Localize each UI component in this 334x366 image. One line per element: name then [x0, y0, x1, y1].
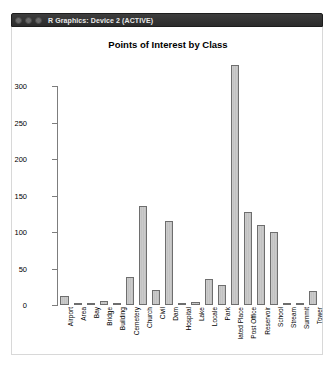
x-axis-label: School: [277, 307, 284, 327]
x-axis-label: Church: [146, 307, 153, 328]
y-axis-tick: [52, 269, 57, 270]
x-axis-label: Summit: [303, 307, 310, 329]
bar: [191, 302, 199, 305]
bar: [60, 296, 68, 305]
y-axis-tick: [52, 232, 57, 233]
bar: [296, 303, 304, 305]
x-axis-label: Cemetery: [133, 307, 140, 335]
x-axis-label: Hospital: [185, 307, 192, 330]
y-axis-tick: [52, 196, 57, 197]
y-axis-tick-label: 250: [1, 119, 27, 128]
x-axis-label: Airport: [67, 307, 74, 326]
bar: [244, 212, 252, 305]
y-axis-tick: [52, 123, 57, 124]
x-axis-label: Area: [80, 307, 87, 321]
x-axis-label: Bridge: [106, 307, 113, 326]
x-axis-label: Civil: [159, 307, 166, 319]
x-axis-label: lated Place: [237, 307, 244, 339]
x-axis-label: Locale: [211, 307, 218, 326]
y-axis-tick-label: 300: [1, 82, 27, 91]
y-axis-tick: [52, 159, 57, 160]
r-graphics-window: R Graphics: Device 2 (ACTIVE) Points of …: [0, 0, 334, 366]
bar: [87, 303, 95, 305]
y-axis-tick: [52, 86, 57, 87]
y-axis-tick-label: 100: [1, 228, 27, 237]
window-controls: [15, 17, 42, 24]
bar: [205, 279, 213, 305]
bar: [74, 303, 82, 305]
y-axis-tick-label: 50: [1, 265, 27, 274]
x-axis-label: Reservoir: [264, 307, 271, 335]
x-axis-label: Bay: [93, 307, 100, 318]
bar: [231, 65, 239, 305]
bar: [100, 301, 108, 305]
bar: [309, 291, 317, 305]
window-body: Points of Interest by Class 050100150200…: [11, 27, 323, 355]
y-axis-tick-label: 150: [1, 192, 27, 201]
bar: [283, 303, 291, 305]
x-axis-labels: AirportAreaBayBridgeBuildingCemeteryChur…: [58, 307, 320, 355]
bar: [218, 285, 226, 305]
y-axis-tick-label: 200: [1, 155, 27, 164]
bar: [178, 303, 186, 305]
y-axis-tick-label: 0: [1, 301, 27, 310]
x-axis-label: Building: [119, 307, 126, 330]
bar: [139, 206, 147, 305]
x-axis-label: Tower: [316, 307, 323, 324]
bar: [270, 232, 278, 305]
bar-chart: Points of Interest by Class 050100150200…: [12, 27, 324, 355]
close-icon[interactable]: [15, 17, 22, 24]
window-titlebar[interactable]: R Graphics: Device 2 (ACTIVE): [11, 13, 323, 27]
bar-series: [58, 27, 320, 305]
maximize-icon[interactable]: [35, 17, 42, 24]
x-axis-label: Lake: [198, 307, 205, 321]
x-axis-label: Dam: [172, 307, 179, 321]
bar: [113, 303, 121, 305]
window-title: R Graphics: Device 2 (ACTIVE): [48, 17, 153, 24]
x-axis-label: Post Office: [250, 307, 257, 339]
y-axis-tick: [52, 305, 57, 306]
x-axis-label: Park: [224, 307, 231, 320]
bar: [165, 221, 173, 305]
minimize-icon[interactable]: [25, 17, 32, 24]
x-axis-label: Stream: [290, 307, 297, 328]
bar: [257, 225, 265, 305]
bar: [152, 290, 160, 305]
bar: [126, 277, 134, 305]
